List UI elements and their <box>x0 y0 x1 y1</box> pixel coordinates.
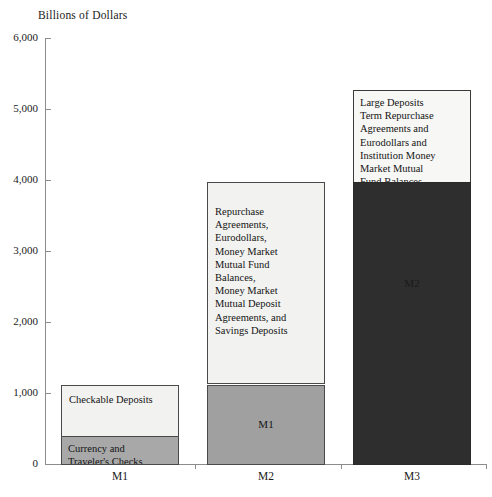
bar-m1-segment-checkable-deposits[interactable]: Checkable Deposits <box>61 385 179 437</box>
y-tick-3000: 3,000 <box>45 251 51 252</box>
y-tick-label-5000: 5,000 <box>13 102 38 114</box>
bar-m2-segment-upper-components[interactable]: Repurchase Agreements, Eurodollars, Mone… <box>207 182 325 384</box>
y-tick-6000: 6,000 <box>45 38 51 39</box>
x-tick-divider-1 <box>195 464 196 469</box>
x-category-label-m1: M1 <box>61 470 179 482</box>
bar-m2-segment-m1[interactable]: M1 <box>207 385 325 465</box>
y-tick-label-3000: 3,000 <box>13 244 38 256</box>
bar-m1-segment-currency-travelers-checks[interactable]: Currency and Traveler's Checks <box>61 436 179 465</box>
bar-m1-segment-currency-travelers-checks-label: Currency and Traveler's Checks <box>68 442 173 465</box>
bar-m2-segment-upper-components-label: Repurchase Agreements, Eurodollars, Mone… <box>215 205 319 337</box>
x-category-label-m3: M3 <box>353 470 471 482</box>
x-category-label-m2: M2 <box>207 470 325 482</box>
bar-m3-segment-upper-components[interactable]: Large Deposits Term Repurchase Agreement… <box>353 90 471 183</box>
x-tick-divider-2 <box>341 464 342 469</box>
y-tick-label-1000: 1,000 <box>13 386 38 398</box>
bar-m3-segment-m2[interactable]: M2 <box>353 182 471 465</box>
y-tick-5000: 5,000 <box>45 109 51 110</box>
x-tick-divider-3 <box>486 464 487 469</box>
y-tick-label-6000: 6,000 <box>13 31 38 43</box>
bar-m3[interactable]: Large Deposits Term Repurchase Agreement… <box>353 90 471 465</box>
y-tick-label-0: 0 <box>33 457 39 469</box>
y-tick-label-2000: 2,000 <box>13 315 38 327</box>
bar-m2-segment-m1-label: M1 <box>208 418 324 431</box>
bar-m2[interactable]: Repurchase Agreements, Eurodollars, Mone… <box>207 182 325 465</box>
chart-axis-title: Billions of Dollars <box>38 9 127 21</box>
bar-m3-segment-upper-components-label: Large Deposits Term Repurchase Agreement… <box>360 96 465 183</box>
y-tick-label-4000: 4,000 <box>13 173 38 185</box>
bar-m3-segment-m2-label: M2 <box>354 278 470 291</box>
y-tick-0: 0 <box>45 464 51 465</box>
y-tick-2000: 2,000 <box>45 322 51 323</box>
bar-m1[interactable]: Checkable Deposits Currency and Traveler… <box>61 385 179 465</box>
bar-m1-segment-checkable-deposits-label: Checkable Deposits <box>69 393 173 406</box>
money-supply-stacked-bar-chart: Billions of Dollars 0 1,000 2,000 3,000 … <box>0 0 492 497</box>
y-tick-4000: 4,000 <box>45 180 51 181</box>
y-tick-1000: 1,000 <box>45 393 51 394</box>
